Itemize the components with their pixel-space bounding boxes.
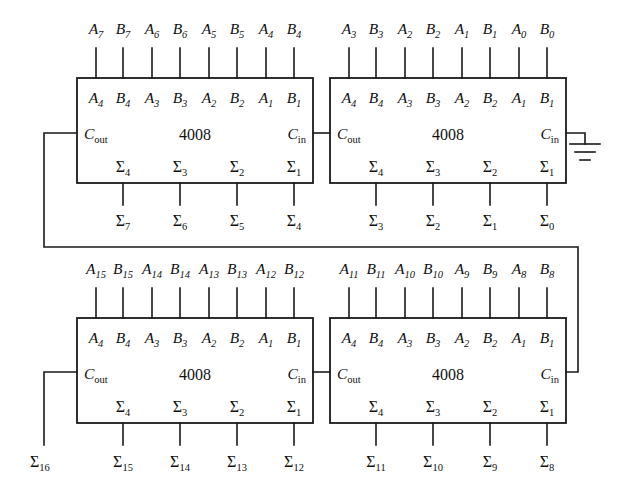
svg-text:Σ4: Σ4 (287, 212, 302, 232)
svg-text:Σ2: Σ2 (426, 212, 441, 232)
svg-text:A1: A1 (454, 20, 470, 40)
svg-text:B14: B14 (170, 260, 191, 280)
svg-text:Σ7: Σ7 (116, 212, 131, 232)
svg-text:B2: B2 (426, 20, 441, 40)
ground-icon (570, 144, 600, 160)
svg-text:B3: B3 (369, 20, 384, 40)
chip-top-left-input-labels: A7 B7 A6 B6 A5 B5 A4 B4 (88, 20, 302, 40)
chip-bottom-left-output-labels: Σ15 Σ14 Σ13 Σ12 (113, 453, 304, 473)
chip-bottom-right-input-labels: A11 B11 A10 B10 A9 B9 A8 B8 (338, 260, 555, 280)
msb-output-label: Σ16 (30, 453, 50, 473)
svg-text:B13: B13 (227, 260, 247, 280)
svg-text:A0: A0 (511, 20, 527, 40)
svg-text:Σ9: Σ9 (483, 453, 498, 473)
svg-text:Σ14: Σ14 (170, 453, 191, 473)
svg-text:B12: B12 (284, 260, 305, 280)
ground-net (566, 133, 600, 160)
svg-text:A2: A2 (397, 20, 413, 40)
chip-bottom-right-output-stubs (376, 423, 547, 445)
chip-bottom-left-output-stubs (123, 423, 294, 445)
svg-text:A12: A12 (255, 260, 277, 280)
svg-text:A10: A10 (394, 260, 416, 280)
chip-top-left-output-labels: Σ7 Σ6 Σ5 Σ4 (116, 212, 302, 232)
svg-text:A6: A6 (144, 20, 160, 40)
svg-text:B1: B1 (483, 20, 498, 40)
svg-text:B8: B8 (540, 260, 555, 280)
svg-text:B7: B7 (116, 20, 131, 40)
svg-text:A14: A14 (141, 260, 163, 280)
svg-text:A13: A13 (198, 260, 219, 280)
svg-text:Σ15: Σ15 (113, 453, 133, 473)
chip-top-right: A3 B3 A2 B2 A1 B1 A0 B0 A4 B4 A3 B3 A2 B… (330, 20, 566, 232)
svg-text:Σ10: Σ10 (423, 453, 443, 473)
svg-text:A9: A9 (454, 260, 470, 280)
input-label-sub: 7 (98, 29, 104, 40)
chip-bottom-right-input-stubs (349, 288, 547, 318)
svg-text:B0: B0 (540, 20, 555, 40)
chip-bottom-right-output-labels: Σ11 Σ10 Σ9 Σ8 (366, 453, 554, 473)
svg-text:A4: A4 (258, 20, 274, 40)
svg-text:B6: B6 (173, 20, 188, 40)
chip-top-left: A7 B7 A6 B6 A5 B5 A4 B4 A4 B4 A3 B3 A2 B… (77, 20, 313, 232)
svg-text:A5: A5 (201, 20, 217, 40)
svg-text:A8: A8 (511, 260, 527, 280)
svg-text:A11: A11 (338, 260, 358, 280)
svg-text:Σ8: Σ8 (540, 453, 555, 473)
svg-text:Σ11: Σ11 (366, 453, 385, 473)
svg-text:B5: B5 (230, 20, 245, 40)
chip-bottom-right: A11 B11 A10 B10 A9 B9 A8 B8 A4 B4 A3 B3 … (330, 260, 566, 473)
msb-carry-output-wire (44, 372, 77, 445)
svg-text:B4: B4 (287, 20, 302, 40)
svg-text:Σ3: Σ3 (369, 212, 384, 232)
chip-top-right-output-stubs (376, 183, 547, 205)
svg-text:Σ0: Σ0 (540, 212, 555, 232)
chip-bottom-left-part-number: 4008 (179, 366, 211, 383)
svg-text:Σ1: Σ1 (483, 212, 498, 232)
svg-text:A15: A15 (85, 260, 106, 280)
svg-text:Σ5: Σ5 (230, 212, 245, 232)
svg-text:Σ6: Σ6 (173, 212, 188, 232)
svg-text:B11: B11 (366, 260, 385, 280)
svg-text:Σ12: Σ12 (284, 453, 304, 473)
svg-text:A3: A3 (341, 20, 357, 40)
chip-bottom-left-input-stubs (96, 288, 294, 318)
chip-top-left-part-number: 4008 (179, 126, 211, 143)
chip-top-right-input-stubs (349, 48, 547, 78)
svg-text:B9: B9 (483, 260, 498, 280)
chip-bottom-left-input-labels: A15 B15 A14 B14 A13 B13 A12 B12 (85, 260, 305, 280)
svg-text:Σ13: Σ13 (227, 453, 247, 473)
chip-top-left-input-stubs (96, 48, 294, 78)
circuit-diagram: A7 B7 A6 B6 A5 B5 A4 B4 A4 B4 A3 B3 A2 B… (0, 0, 622, 501)
svg-text:B15: B15 (113, 260, 133, 280)
chip-top-right-input-labels: A3 B3 A2 B2 A1 B1 A0 B0 (341, 20, 555, 40)
input-label-letter: A (88, 20, 99, 37)
chip-top-left-output-stubs (123, 183, 294, 205)
svg-text:A7: A7 (88, 20, 104, 40)
chip-bottom-right-part-number: 4008 (432, 366, 464, 383)
ground-lead-wire (566, 133, 585, 144)
svg-text:B10: B10 (423, 260, 444, 280)
chip-top-right-part-number: 4008 (432, 126, 464, 143)
chip-bottom-left: A15 B15 A14 B14 A13 B13 A12 B12 A4 B4 A3… (77, 260, 313, 473)
chip-top-right-output-labels: Σ3 Σ2 Σ1 Σ0 (369, 212, 555, 232)
